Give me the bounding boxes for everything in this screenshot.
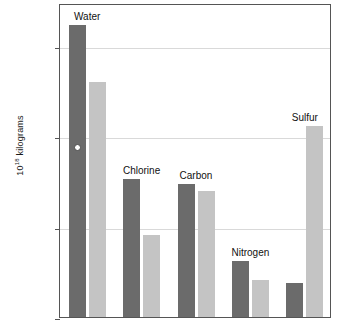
y-tick-mark-100 [55,138,60,139]
y-tick-mark-1000 [55,48,60,49]
y-axis-title-unit: kilograms [15,115,25,158]
group-label-nitrogen: Nitrogen [209,247,291,258]
bar-sulfur-dark [286,283,303,317]
x-axis-caption [59,322,331,330]
bar-nitrogen-dark [232,261,249,317]
bar-water-dark [69,25,86,317]
group-label-carbon: Carbon [155,170,237,181]
y-tick-mark-1 [55,319,60,320]
y-axis-title-exponent: 18 [14,158,20,165]
bar-chart: 1018 kilograms 1000100101WaterChlorineCa… [0,0,337,331]
bar-sulfur-light [306,126,323,317]
group-label-water: Water [46,11,128,22]
bar-water-light [89,82,106,317]
y-axis-title: 1018 kilograms [14,91,25,201]
water-dark-point-marker [74,144,81,151]
plot-area: 1000100101WaterChlorineCarbonNitrogenSul… [59,4,331,318]
bar-chlorine-light [143,235,160,317]
bar-nitrogen-light [252,280,269,317]
bar-chlorine-dark [123,179,140,317]
bar-carbon-dark [178,184,195,317]
group-label-sulfur: Sulfur [264,112,337,123]
gridline-1000 [60,48,330,49]
y-tick-mark-10 [55,229,60,230]
y-axis-title-base: 10 [15,165,25,175]
